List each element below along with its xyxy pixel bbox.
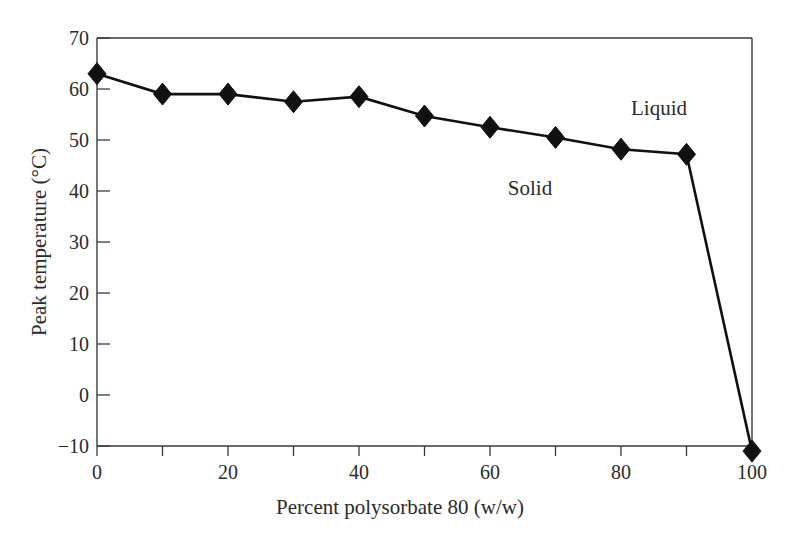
data-series-peak-temperature: [88, 63, 761, 462]
series-line: [97, 74, 752, 451]
annotation-liquid: Liquid: [631, 96, 687, 120]
y-axis-ticks: [97, 38, 110, 446]
data-point-marker: [416, 105, 434, 127]
data-point-marker: [481, 116, 499, 138]
data-point-marker: [219, 83, 237, 105]
x-tick-label-100: 100: [737, 461, 767, 483]
data-point-marker: [547, 126, 565, 148]
data-point-marker: [285, 91, 303, 113]
data-point-marker: [88, 63, 106, 85]
chart-figure: 70 60 50 40 30 20 10 0 −10 0 20: [0, 0, 796, 539]
data-point-marker: [350, 86, 368, 108]
y-tick-label-0: 0: [79, 384, 89, 406]
data-point-marker: [743, 440, 761, 462]
y-axis-title: Peak temperature (°C): [27, 148, 51, 336]
y-tick-label-70: 70: [69, 27, 89, 49]
x-tick-label-20: 20: [218, 461, 238, 483]
y-tick-label-40: 40: [69, 180, 89, 202]
x-axis-tick-labels: 0 20 40 60 80 100: [92, 461, 767, 483]
data-point-marker: [154, 83, 172, 105]
annotation-solid: Solid: [508, 176, 553, 200]
y-tick-label-60: 60: [69, 78, 89, 100]
y-tick-label-30: 30: [69, 231, 89, 253]
x-tick-label-0: 0: [92, 461, 102, 483]
line-chart-svg: 70 60 50 40 30 20 10 0 −10 0 20: [0, 0, 796, 539]
y-tick-label-10: 10: [69, 333, 89, 355]
x-tick-label-80: 80: [611, 461, 631, 483]
y-tick-label-50: 50: [69, 129, 89, 151]
y-axis-tick-labels: 70 60 50 40 30 20 10 0 −10: [58, 27, 89, 457]
series-markers: [88, 63, 761, 462]
x-axis-ticks: [97, 446, 752, 456]
data-point-marker: [612, 138, 630, 160]
x-tick-label-40: 40: [349, 461, 369, 483]
x-axis-title: Percent polysorbate 80 (w/w): [276, 495, 524, 519]
y-tick-label-minus10: −10: [58, 435, 89, 457]
y-tick-label-20: 20: [69, 282, 89, 304]
data-point-marker: [678, 143, 696, 165]
x-tick-label-60: 60: [480, 461, 500, 483]
